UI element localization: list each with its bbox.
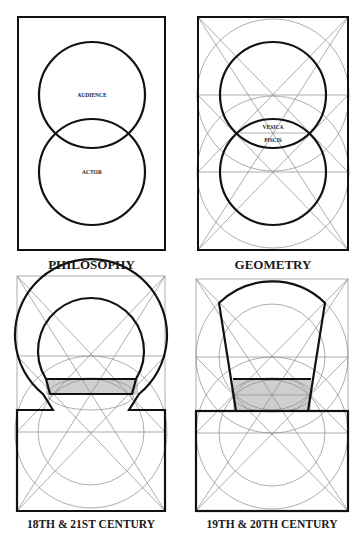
panel-19th-20th-century	[196, 279, 348, 511]
construction-lines	[197, 17, 349, 250]
piscis-label: PISCIS	[264, 137, 282, 143]
actor-label: ACTOR	[82, 169, 103, 175]
panel-18th-21st-century	[15, 259, 167, 511]
construction-lines	[196, 279, 348, 511]
caption-philosophy: PHILOSOPHY	[18, 257, 165, 273]
caption-18th-21st-century: 18TH & 21ST CENTURY	[10, 518, 172, 530]
audience-label: AUDIENCE	[77, 92, 107, 98]
stage-house	[196, 411, 348, 511]
panel-philosophy: AUDIENCE ACTOR	[18, 17, 165, 250]
panel-geometry: VESICA PISCIS	[197, 17, 349, 250]
caption-19th-20th-century: 19TH & 20TH CENTURY	[190, 518, 354, 530]
caption-geometry: GEOMETRY	[198, 257, 348, 273]
panel-frame	[18, 17, 165, 250]
vesica-label: VESICA	[263, 124, 284, 130]
